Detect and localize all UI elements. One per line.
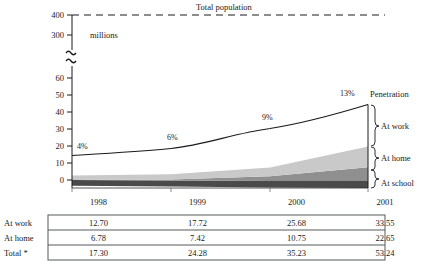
table-cell-atwork-2000: 25.68 [247,218,346,228]
y-tick-50: 50 [44,91,64,100]
table-row-label-total: Total * [4,248,28,258]
brace-at-school [371,170,379,188]
column-header-2001: 2001 [346,197,424,207]
pct-label-2001: 13% [340,90,355,98]
axis-break-icon [66,51,76,55]
brace-at-home [371,147,379,170]
table-cell-athome-1998: 6.78 [49,233,148,243]
total-population-label: Total population [196,3,252,12]
penetration-label: Penetration [370,90,409,99]
table-cell-athome-2001: 22.65 [346,233,424,243]
table-cell-athome-2000: 10.75 [247,233,346,243]
brace-at-work [371,105,379,146]
table-cell-atwork-1999: 17.72 [148,218,247,228]
table-cell-athome-1999: 7.42 [148,233,247,243]
y-tick-60: 60 [44,74,64,83]
y-tick-300: 300 [44,31,64,40]
table-cell-total-1998: 17.30 [49,248,148,258]
column-header-2000: 2000 [247,197,346,207]
table-cell-atwork-2001: 33.55 [346,218,424,228]
table-cell-total-1999: 24.28 [148,248,247,258]
y-tick-30: 30 [44,125,64,134]
column-header-1999: 1999 [148,197,247,207]
area-at-school [72,180,368,188]
band-label-at-home: At home [381,154,411,163]
population-penetration-chart: 400 300 60 50 40 30 20 10 0 millions Tot… [0,0,443,266]
y-tick-0: 0 [44,176,64,185]
penetration-line [72,105,368,156]
table-row-label-at-home: At home [4,233,34,243]
pct-label-1998: 4% [77,143,88,151]
y-tick-10: 10 [44,159,64,168]
y-tick-marks [67,15,72,180]
column-header-1998: 1998 [49,197,148,207]
pct-label-1999: 6% [167,134,178,142]
band-label-at-school: At school [381,179,414,188]
y-tick-400: 400 [44,11,64,20]
table-cell-total-2001: 53.24 [346,248,424,258]
y-tick-20: 20 [44,142,64,151]
table-row-label-at-work: At work [4,218,32,228]
pct-label-2000: 9% [262,114,273,122]
table-cell-total-2000: 35.23 [247,248,346,258]
axis-break-icon-2 [66,59,76,63]
x-tick-marks [72,188,368,192]
units-label: millions [90,31,118,40]
band-label-at-work: At work [381,122,409,131]
y-tick-40: 40 [44,108,64,117]
table-cell-atwork-1998: 12.70 [49,218,148,228]
